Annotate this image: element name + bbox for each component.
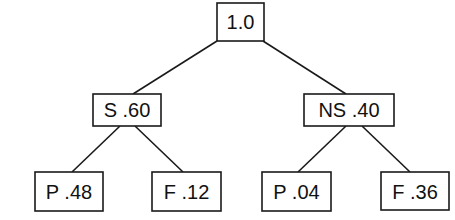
node-label-ns: NS .40	[318, 99, 379, 121]
node-label-s-p: P .48	[46, 181, 92, 203]
node-s-p: P .48	[35, 172, 103, 211]
node-label-root: 1.0	[227, 11, 255, 33]
edge-ns-p	[298, 126, 346, 172]
edge-ns-f	[362, 126, 410, 172]
node-label-ns-p: P .04	[273, 181, 319, 203]
node-ns-f: F .36	[381, 172, 449, 210]
node-s: S .60	[93, 94, 161, 126]
node-s-f: F .12	[152, 172, 221, 211]
node-label-s: S .60	[104, 99, 151, 121]
probability-tree: 1.0 S .60 NS .40 P .48 F .12 P .04 F .36	[0, 0, 455, 220]
node-ns-p: P .04	[262, 172, 331, 211]
edge-root-s	[133, 41, 217, 94]
node-ns: NS .40	[304, 94, 394, 126]
node-root: 1.0	[217, 3, 264, 41]
edge-s-f	[135, 126, 183, 172]
node-label-s-f: F .12	[164, 181, 210, 203]
edge-root-ns	[263, 41, 346, 94]
node-label-ns-f: F .36	[392, 181, 438, 203]
edge-s-p	[72, 126, 120, 172]
